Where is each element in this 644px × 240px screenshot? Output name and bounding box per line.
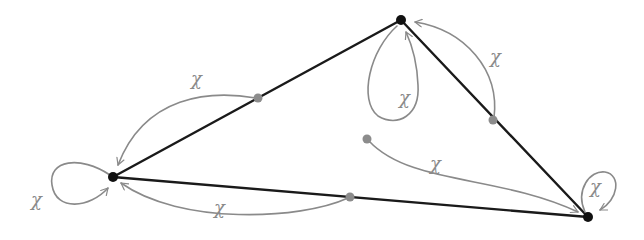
- label-chi-top-loop: χ: [397, 87, 411, 108]
- arrow-midlefttop-to-left: [118, 95, 256, 165]
- triangle-diagram: χ χ χ χ χ χ χ: [0, 0, 644, 240]
- loop-top: [368, 26, 418, 120]
- midpoint-bottom: [346, 193, 355, 202]
- midpoint-top-right: [489, 116, 498, 125]
- vertex-left: [108, 172, 118, 182]
- label-chi-interior: χ: [428, 153, 442, 174]
- label-chi-bottom-right-loop: χ: [588, 176, 602, 197]
- label-chi-upper-left: χ: [189, 68, 203, 89]
- midpoint-left-top: [254, 94, 263, 103]
- vertex-bottom-right: [583, 212, 593, 222]
- loop-left: [52, 163, 110, 204]
- interior-point: [363, 135, 372, 144]
- label-chi-bottom: χ: [212, 197, 226, 218]
- label-chi-left-loop: χ: [29, 189, 43, 210]
- arrow-midtopright-to-top: [415, 22, 495, 118]
- vertex-top: [396, 15, 406, 25]
- label-chi-top-right: χ: [488, 46, 502, 67]
